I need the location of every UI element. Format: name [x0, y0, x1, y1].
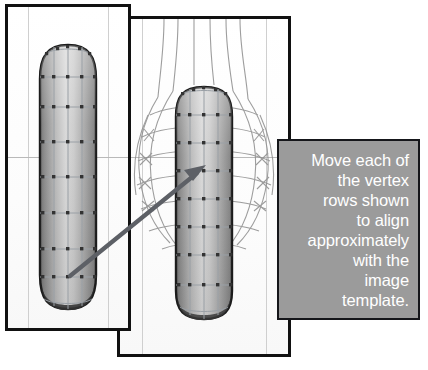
viewport-background-left: [8, 7, 128, 328]
mesh-render-right: [120, 19, 288, 354]
capsule-mesh-left: [40, 45, 96, 310]
viewport-background-right: [120, 19, 288, 354]
capsule-mesh-right: [176, 86, 232, 320]
instruction-callout-box: Move each of the vertex rows shown to al…: [277, 139, 420, 320]
viewport-panel-with-template[interactable]: [117, 16, 291, 357]
instruction-callout-text: Move each of the vertex rows shown to al…: [302, 148, 418, 312]
viewport-panel-before[interactable]: [5, 4, 131, 331]
mesh-render-left: [8, 7, 128, 328]
figure-canvas: Move each of the vertex rows shown to al…: [0, 0, 428, 370]
